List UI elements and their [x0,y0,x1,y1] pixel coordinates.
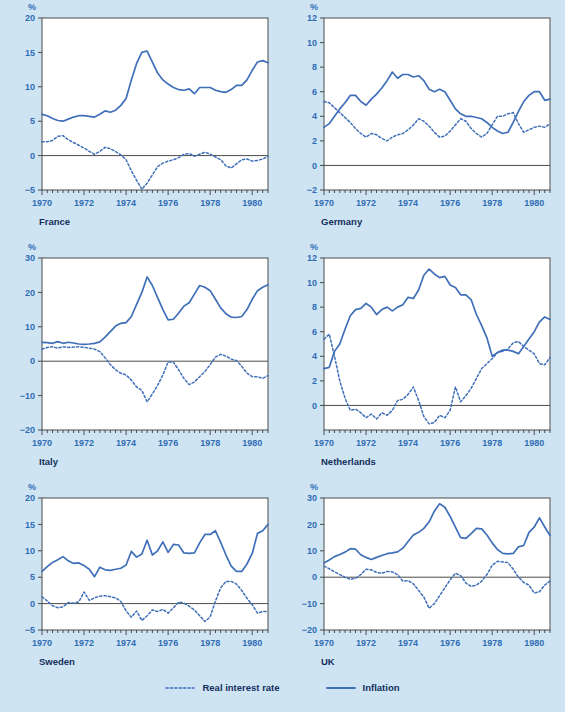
y-tick-label: 0 [312,161,317,171]
y-tick-label: 30 [307,493,317,503]
y-tick-label: 10 [307,38,317,48]
x-tick-label: 1980 [524,198,544,208]
y-tick-label: 20 [25,493,35,503]
chart-panel-netherlands: 024681012197019721974197619781980%Nether… [282,240,565,480]
figure-panel-grid: −505101520197019721974197619781980%Franc… [0,0,565,712]
y-tick-label: 10 [25,546,35,556]
x-tick-label: 1976 [440,438,460,448]
x-tick-label: 1970 [314,198,334,208]
chart-svg-netherlands: 024681012197019721974197619781980 [282,240,564,480]
x-tick-label: 1980 [242,438,262,448]
y-tick-label: 15 [25,48,35,58]
y-tick-label: 0 [30,356,35,366]
y-tick-label: −10 [302,599,317,609]
y-tick-label: 2 [312,376,317,386]
x-tick-label: 1972 [356,638,376,648]
chart-svg-sweden: −505101520197019721974197619781980 [0,480,282,680]
legend-label: Real interest rate [202,682,279,693]
legend-item-real-interest-rate: Real interest rate [165,682,279,693]
x-tick-label: 1974 [398,638,418,648]
chart-svg-france: −505101520197019721974197619781980 [0,0,282,240]
x-tick-label: 1974 [398,198,418,208]
x-tick-label: 1972 [356,438,376,448]
chart-title-italy: Italy [39,456,58,467]
y-tick-label: −5 [25,625,35,635]
chart-title-france: France [39,216,70,227]
y-tick-label: 12 [307,253,317,263]
chart-svg-germany: −2024681012197019721974197619781980 [282,0,564,240]
solid-line-swatch [326,683,356,693]
x-tick-label: 1978 [200,198,220,208]
y-tick-label: 6 [312,87,317,97]
y-tick-label: 0 [312,401,317,411]
chart-panel-italy: −20−100102030197019721974197619781980%It… [0,240,282,480]
x-tick-label: 1974 [116,438,136,448]
x-tick-label: 1980 [524,438,544,448]
x-tick-label: 1972 [74,198,94,208]
y-axis-unit-label: % [310,242,318,252]
y-tick-label: 20 [307,520,317,530]
y-tick-label: 20 [25,288,35,298]
y-axis-unit-label: % [28,482,36,492]
y-tick-label: 4 [312,351,317,361]
chart-svg-uk: −20−100102030197019721974197619781980 [282,480,564,680]
y-tick-label: 0 [30,599,35,609]
y-tick-label: 4 [312,111,317,121]
x-tick-label: 1972 [356,198,376,208]
y-tick-label: 6 [312,327,317,337]
y-tick-label: −5 [25,185,35,195]
chart-panel-sweden: −505101520197019721974197619781980%Swede… [0,480,282,680]
x-tick-label: 1980 [524,638,544,648]
chart-title-netherlands: Netherlands [321,456,376,467]
x-tick-label: 1972 [74,438,94,448]
y-axis-unit-label: % [310,2,318,12]
chart-title-sweden: Sweden [39,656,75,667]
y-axis-unit-label: % [28,2,36,12]
y-tick-label: 0 [30,151,35,161]
y-tick-label: −20 [302,625,317,635]
y-axis-unit-label: % [310,482,318,492]
x-tick-label: 1980 [242,638,262,648]
x-tick-label: 1974 [398,438,418,448]
figure-legend: Real interest rateInflation [0,682,565,712]
y-tick-label: 15 [25,520,35,530]
x-tick-label: 1978 [482,198,502,208]
y-tick-label: 5 [30,116,35,126]
y-tick-label: 10 [307,278,317,288]
y-tick-label: 10 [25,82,35,92]
y-tick-label: 8 [312,302,317,312]
x-tick-label: 1970 [32,638,52,648]
y-tick-label: 2 [312,136,317,146]
x-tick-label: 1970 [32,438,52,448]
chart-panel-uk: −20−100102030197019721974197619781980%UK [282,480,565,680]
x-tick-label: 1974 [116,198,136,208]
x-tick-label: 1976 [440,198,460,208]
y-tick-label: −10 [20,391,35,401]
x-tick-label: 1978 [482,638,502,648]
chart-panel-germany: −2024681012197019721974197619781980%Germ… [282,0,565,240]
y-tick-label: −20 [20,425,35,435]
y-tick-label: 0 [312,572,317,582]
x-tick-label: 1976 [158,438,178,448]
chart-title-uk: UK [321,656,335,667]
chart-panel-france: −505101520197019721974197619781980%Franc… [0,0,282,240]
x-tick-label: 1970 [32,198,52,208]
y-tick-label: 8 [312,62,317,72]
x-tick-label: 1978 [200,438,220,448]
y-tick-label: 20 [25,13,35,23]
y-tick-label: 10 [307,546,317,556]
x-tick-label: 1970 [314,438,334,448]
x-tick-label: 1978 [482,438,502,448]
x-tick-label: 1976 [440,638,460,648]
x-tick-label: 1980 [242,198,262,208]
y-tick-label: 10 [25,322,35,332]
y-tick-label: −2 [307,185,317,195]
y-tick-label: 12 [307,13,317,23]
legend-item-inflation: Inflation [326,682,400,693]
x-tick-label: 1970 [314,638,334,648]
chart-title-germany: Germany [321,216,362,227]
legend-label: Inflation [363,682,400,693]
x-tick-label: 1974 [116,638,136,648]
y-axis-unit-label: % [28,242,36,252]
y-tick-label: 30 [25,253,35,263]
